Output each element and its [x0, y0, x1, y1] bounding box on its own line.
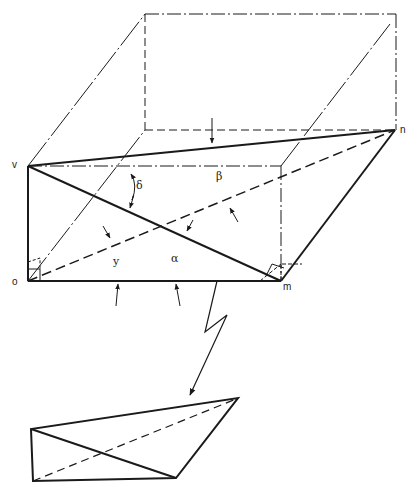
angle-label-beta: β: [216, 171, 222, 182]
point-label-v: v: [12, 160, 17, 170]
angle-label-alpha: α: [171, 253, 178, 264]
angle-label-delta: δ: [136, 180, 143, 191]
zigzag-arrow: [190, 281, 227, 395]
point-label-o: o: [12, 277, 18, 287]
diagonal-o-n: [28, 130, 395, 281]
angle-label-gamma: y: [113, 256, 119, 267]
geometry-diagram: [0, 0, 418, 493]
point-label-m: m: [283, 282, 291, 292]
point-label-n: n: [400, 125, 406, 135]
